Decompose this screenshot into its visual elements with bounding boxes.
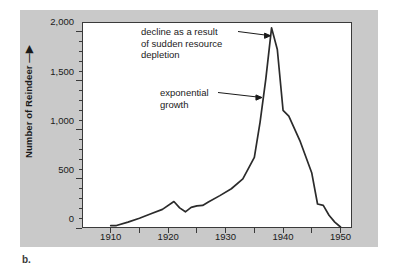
figure-panel-label: b. — [22, 254, 31, 265]
series-line-reindeer-population — [111, 28, 341, 227]
data-series-layer — [111, 28, 341, 227]
annotation-leader-lines — [218, 32, 271, 101]
chart-vector-layer — [0, 0, 396, 278]
figure-container: 2,000 1,500 1,000 500 0 1910 1920 1930 1… — [0, 0, 396, 278]
